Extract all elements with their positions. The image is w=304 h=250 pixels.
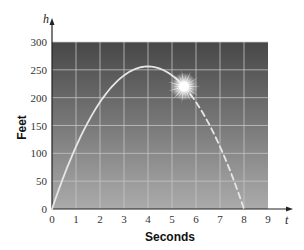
x-axis-label: Seconds <box>145 230 195 244</box>
x-tick-label: 8 <box>241 213 247 225</box>
x-axis-variable: t <box>285 213 289 227</box>
chart: 0123456789050100150200250300 Seconds Fee… <box>0 0 304 250</box>
y-tick-label: 100 <box>31 147 48 159</box>
x-tick-label: 1 <box>73 213 79 225</box>
y-tick-label: 250 <box>31 64 48 76</box>
y-axis-arrow-icon <box>50 18 55 25</box>
y-tick-label: 200 <box>31 92 48 104</box>
x-tick-label: 3 <box>121 213 127 225</box>
x-axis-arrow-icon <box>286 207 293 212</box>
x-tick-label: 9 <box>265 213 271 225</box>
y-tick-label: 150 <box>31 120 48 132</box>
x-tick-label: 5 <box>169 213 175 225</box>
x-tick-label: 4 <box>145 213 151 225</box>
y-axis-variable: h <box>43 12 49 26</box>
y-axis-label: Feet <box>15 115 29 140</box>
y-tick-label: 0 <box>42 203 48 215</box>
y-tick-label: 50 <box>36 175 48 187</box>
x-tick-label: 7 <box>217 213 223 225</box>
y-tick-label: 300 <box>31 36 48 48</box>
x-tick-label: 0 <box>49 213 55 225</box>
x-tick-label: 2 <box>97 213 103 225</box>
x-tick-label: 6 <box>193 213 199 225</box>
